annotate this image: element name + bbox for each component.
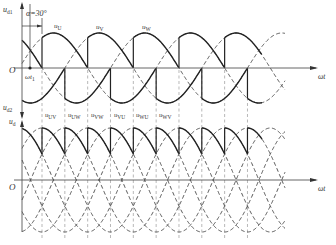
ud-segment	[65, 128, 88, 153]
ud2-segment	[156, 68, 202, 103]
ud-segment	[110, 128, 133, 153]
line-voltage-label: uVU	[114, 111, 125, 120]
ud2-segment	[65, 68, 111, 103]
alpha-label: α=30°	[26, 9, 48, 18]
ud1-segment	[225, 33, 262, 54]
top-y-axis-arrow-down-icon	[20, 112, 24, 119]
ud1-segment	[22, 40, 42, 68]
line-voltage-label: uWV	[159, 111, 171, 120]
line-voltage-label: uWU	[136, 111, 148, 120]
ud-segment	[133, 128, 156, 153]
ud2-segment	[202, 68, 248, 103]
top-y-axis-arrow-up-icon	[20, 2, 24, 9]
ud1-segment	[88, 33, 134, 68]
ud-segment	[179, 128, 202, 153]
ud1-segment	[42, 33, 88, 68]
top-y-bottom-label: ud2	[3, 103, 13, 113]
top-x-label: ωt	[318, 72, 326, 81]
line-voltage-labels: uUV uUW uVW uVU uWU uWV	[45, 111, 171, 120]
line-voltage-label: uUV	[45, 111, 56, 120]
wt1-point-icon	[28, 66, 31, 69]
ud-segment	[202, 128, 225, 153]
line-voltage-label: uVW	[91, 111, 104, 120]
rectifier-waveform-diagram: ud1 α=30° uU uV uW O ωt1 ωt ud2 ud O ωt …	[0, 0, 336, 245]
ud-segment	[42, 128, 65, 153]
top-y-label: ud1	[3, 5, 13, 15]
bottom-y-label: ud	[9, 117, 16, 127]
bottom-x-axis-arrow-icon	[310, 178, 318, 182]
ud-segment	[247, 128, 262, 139]
phase-label-u: uU	[54, 22, 62, 31]
ud2-segment	[110, 68, 156, 103]
bottom-x-label: ωt	[318, 184, 326, 193]
ud-segment	[225, 128, 248, 153]
bottom-output-voltage-solid	[22, 128, 262, 154]
top-x-axis-arrow-icon	[310, 66, 318, 70]
top-axes	[14, 2, 318, 119]
top-origin-label: O	[9, 65, 16, 75]
ud1-segment	[179, 33, 225, 68]
phase-label-w: uW	[142, 23, 152, 32]
ud-segment	[88, 128, 111, 153]
phase-label-v: uV	[96, 23, 104, 32]
ud1-segment	[133, 33, 179, 68]
alpha-arrow-icon	[37, 25, 42, 28]
bottom-origin-label: O	[9, 182, 16, 192]
line-voltage-label: uUW	[68, 111, 81, 120]
firing-guide-lines	[42, 70, 247, 238]
bottom-y-axis-arrow-up-icon	[20, 120, 24, 127]
ud-segment	[156, 128, 179, 153]
ud-segment	[22, 128, 42, 154]
wt1-label: ωt1	[25, 73, 35, 82]
ud2-segment	[247, 98, 262, 103]
